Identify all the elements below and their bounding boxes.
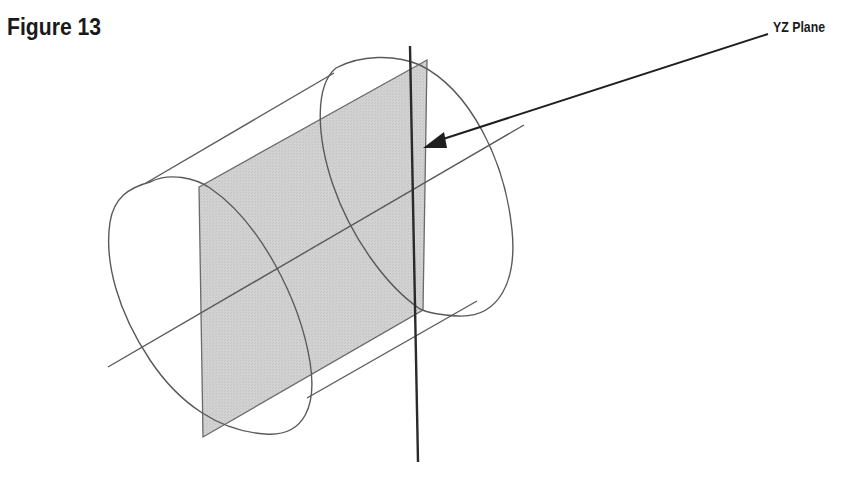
cylinder-wireframe <box>108 57 524 434</box>
arrowhead-icon <box>423 132 447 148</box>
callout-arrow <box>423 34 768 148</box>
cylinder-diagram <box>0 0 859 480</box>
